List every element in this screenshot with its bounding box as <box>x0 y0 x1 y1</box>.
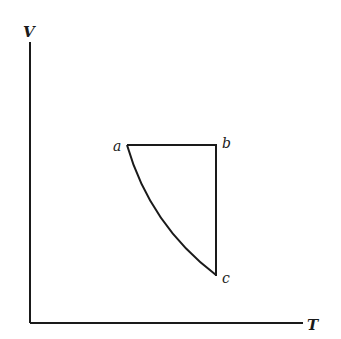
point-a-label: a <box>113 138 121 154</box>
diagram-svg: V T a b c <box>0 0 341 339</box>
point-b-label: b <box>222 135 231 151</box>
v-axis-label: V <box>23 23 36 41</box>
vt-diagram: V T a b c <box>0 0 341 339</box>
point-c-label: c <box>222 270 230 286</box>
t-axis-label: T <box>307 316 320 334</box>
segment-c-a-curve <box>127 145 216 275</box>
